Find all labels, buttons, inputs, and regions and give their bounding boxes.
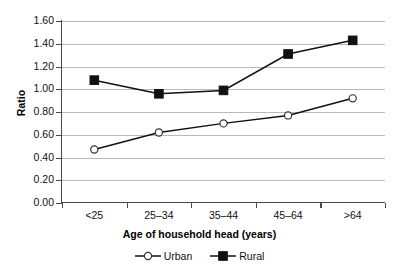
data-point-rural-4 <box>348 36 357 45</box>
legend-marker-filled-square <box>210 250 236 262</box>
data-point-urban-2 <box>220 120 227 127</box>
data-point-rural-0 <box>90 76 99 85</box>
legend-label: Rural <box>239 250 264 262</box>
series-layer <box>0 0 399 276</box>
data-point-rural-2 <box>219 86 228 95</box>
line-chart: 0.000.200.400.600.801.001.201.401.60 <25… <box>0 0 399 276</box>
legend-item-rural[interactable]: Rural <box>210 250 264 262</box>
data-point-urban-1 <box>155 129 162 136</box>
legend: UrbanRural <box>0 250 399 262</box>
legend-marker-open-circle <box>135 250 161 262</box>
legend-item-urban[interactable]: Urban <box>135 250 193 262</box>
data-point-urban-4 <box>349 95 356 102</box>
data-point-urban-0 <box>91 146 98 153</box>
legend-label: Urban <box>164 250 193 262</box>
data-point-rural-3 <box>284 50 293 59</box>
data-point-urban-3 <box>285 112 292 119</box>
data-point-rural-1 <box>155 90 164 99</box>
